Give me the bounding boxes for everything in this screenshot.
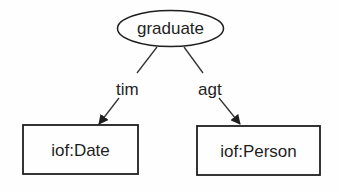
edge-label-agt: agt [198, 81, 222, 98]
edge-agt-lower [219, 98, 240, 124]
node-person-label: iof:Person [197, 143, 320, 160]
edge-tim-upper [137, 47, 157, 73]
edge-label-tim: tim [116, 81, 139, 98]
node-date-label: iof:Date [23, 142, 138, 159]
edge-tim-lower [99, 98, 119, 124]
edge-agt-upper [184, 47, 203, 73]
root-node-label: graduate [117, 20, 224, 37]
